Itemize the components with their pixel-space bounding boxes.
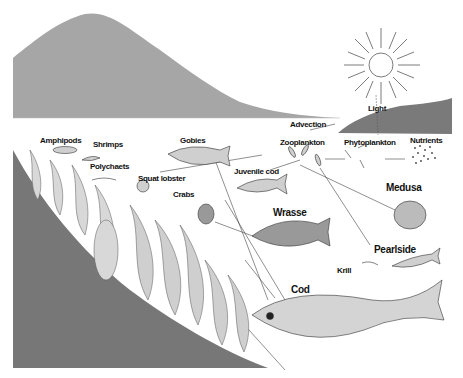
label-medusa: Medusa — [386, 182, 421, 193]
label-krill: Krill — [337, 266, 351, 275]
food-web-diagram: Light Advection Zooplankton Phytoplankto… — [0, 0, 463, 378]
label-shrimps: Shrimps — [93, 140, 123, 149]
zooplankton-icon — [287, 144, 322, 167]
wrasse-icon — [252, 218, 330, 246]
juvenile-cod-icon — [237, 174, 287, 194]
label-advection: Advection — [290, 120, 326, 129]
polychaete-icon — [92, 178, 116, 180]
medusa-icon — [394, 201, 426, 229]
label-juvenile-cod: Juvenile cod — [234, 167, 279, 176]
label-nutrients: Nutrients — [410, 136, 442, 145]
mountain-shape — [13, 13, 340, 118]
label-zooplankton: Zooplankton — [280, 138, 325, 147]
label-wrasse: Wrasse — [273, 207, 307, 218]
label-pearlside: Pearlside — [374, 244, 416, 255]
sun-icon — [344, 28, 420, 104]
crab-icon — [198, 204, 214, 224]
label-gobies: Gobies — [180, 136, 205, 145]
label-polychaets: Polychaets — [90, 162, 129, 171]
shore-right-shape — [338, 98, 452, 134]
nutrients-icon — [412, 145, 436, 164]
amphipod-icon — [53, 147, 77, 154]
label-amphipods: Amphipods — [40, 136, 81, 145]
label-cod: Cod — [291, 284, 310, 295]
krill-icon — [362, 262, 378, 265]
label-phytoplankton: Phytoplankton — [344, 138, 396, 147]
label-crabs: Crabs — [173, 190, 194, 199]
goby-icon — [168, 146, 230, 166]
label-light: Light — [368, 104, 386, 113]
cod-icon — [252, 280, 444, 337]
label-squat-lobster: Squat lobster — [138, 174, 185, 183]
phytoplankton-icon — [345, 144, 366, 168]
shrimp-icon — [82, 156, 100, 160]
